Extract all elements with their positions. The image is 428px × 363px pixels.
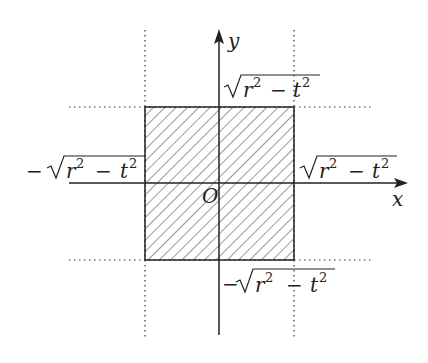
label-right-exp-a: 2 [329, 156, 337, 171]
origin-label: O [202, 184, 218, 208]
label-left-exp-a: 2 [76, 156, 84, 171]
diagram-canvas: y x O r 2 − t 2 − r 2 − t 2 r 2 − t 2 − … [0, 0, 428, 363]
label-right-t: t [372, 159, 381, 183]
label-right-op: − [348, 159, 365, 183]
label-bottom-exp-b: 2 [319, 270, 327, 285]
label-left-op: − [95, 159, 112, 183]
label-left-t: t [120, 159, 129, 183]
label-top-t: t [293, 78, 302, 102]
label-top-exp-a: 2 [253, 75, 261, 90]
label-bottom-sign: − [222, 272, 239, 296]
label-left: − r 2 − t 2 [26, 156, 145, 183]
label-bottom-t: t [310, 273, 319, 297]
label-bottom-op: − [286, 273, 303, 297]
x-axis-label: x [392, 187, 403, 211]
label-bottom-exp-a: 2 [265, 270, 273, 285]
label-left-exp-b: 2 [129, 156, 137, 171]
label-top: r 2 − t 2 [224, 75, 320, 102]
label-left-sign: − [26, 159, 43, 183]
label-right: r 2 − t 2 [300, 156, 397, 183]
label-bottom: − r 2 − t 2 [222, 269, 335, 297]
label-top-exp-b: 2 [302, 75, 310, 90]
label-right-exp-b: 2 [381, 156, 389, 171]
y-axis-label: y [227, 29, 240, 53]
label-top-op: − [270, 78, 287, 102]
